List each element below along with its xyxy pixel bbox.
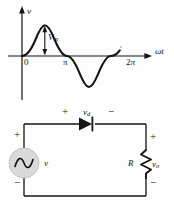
circuit-svg [0, 102, 174, 210]
source-minus-sign: − [14, 177, 20, 188]
y-axis-label: v [27, 7, 31, 16]
amplitude-arrow [42, 26, 47, 56]
sine-curve-tail [111, 50, 120, 56]
output-plus-sign: + [150, 131, 156, 142]
output-minus-sign: − [150, 177, 156, 188]
diode-voltage-sub: d [87, 110, 90, 117]
diode-symbol [79, 117, 92, 132]
v-axis [19, 6, 25, 100]
output-voltage-label: vo [152, 160, 159, 170]
scan-speck [120, 46, 121, 47]
amplitude-label-sub: m [54, 35, 59, 42]
waveform-plot: v 0 π 2π ωt Vm [0, 0, 174, 102]
source-plus-sign: + [14, 129, 20, 140]
amplitude-label: Vm [48, 33, 58, 43]
diode-minus-sign: − [108, 106, 114, 117]
x-axis-label: ωt [155, 47, 164, 56]
diode-voltage-label: vd [83, 108, 90, 118]
diode-plus-sign: + [62, 106, 68, 117]
resistor-symbol [141, 150, 151, 178]
output-voltage-sub: o [156, 162, 159, 169]
x-tick-2pi: 2π [126, 58, 135, 67]
origin-label: 0 [24, 58, 29, 67]
source-voltage-label: v [44, 159, 48, 168]
resistor-label: R [128, 159, 134, 168]
circuit-schematic: + vd − + v − + R vo − [0, 102, 174, 210]
x-tick-pi: π [63, 58, 68, 67]
ac-source-symbol [9, 148, 39, 178]
rectifier-figure: v 0 π 2π ωt Vm [0, 0, 174, 210]
